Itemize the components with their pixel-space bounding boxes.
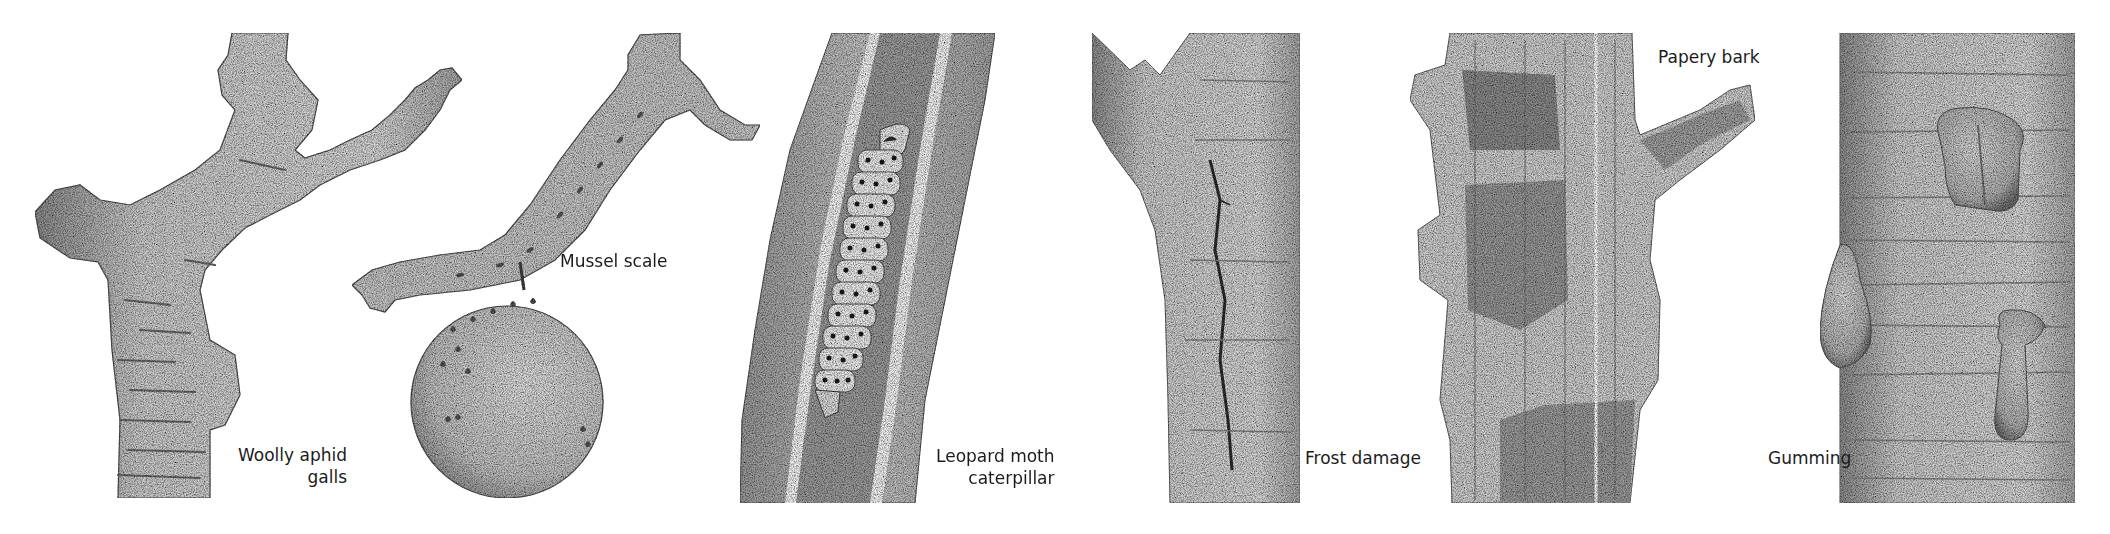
illustration-plate: Woolly aphid galls Mussel scale Leopard … — [0, 0, 2110, 534]
label-line: Gumming — [1768, 447, 1851, 469]
label-frost-damage: Frost damage — [1305, 447, 1421, 469]
label-gumming: Gumming — [1768, 447, 1851, 469]
label-woolly-aphid-galls: Woolly aphid galls — [238, 444, 347, 488]
label-line: Woolly aphid — [238, 444, 347, 466]
label-line: Leopard moth — [936, 445, 1055, 467]
label-leopard-moth-caterpillar: Leopard moth caterpillar — [936, 445, 1055, 489]
papery-bark-illustration — [1410, 33, 1755, 503]
label-line: caterpillar — [936, 467, 1055, 489]
label-line: galls — [238, 466, 347, 488]
frost-damage-illustration — [1092, 33, 1300, 503]
label-line: Mussel scale — [560, 250, 668, 272]
label-mussel-scale: Mussel scale — [560, 250, 668, 272]
label-line: Frost damage — [1305, 447, 1421, 469]
label-papery-bark: Papery bark — [1658, 46, 1760, 68]
leopard-moth-caterpillar-illustration — [740, 33, 995, 503]
gumming-illustration — [1820, 33, 2075, 503]
label-line: Papery bark — [1658, 46, 1760, 68]
